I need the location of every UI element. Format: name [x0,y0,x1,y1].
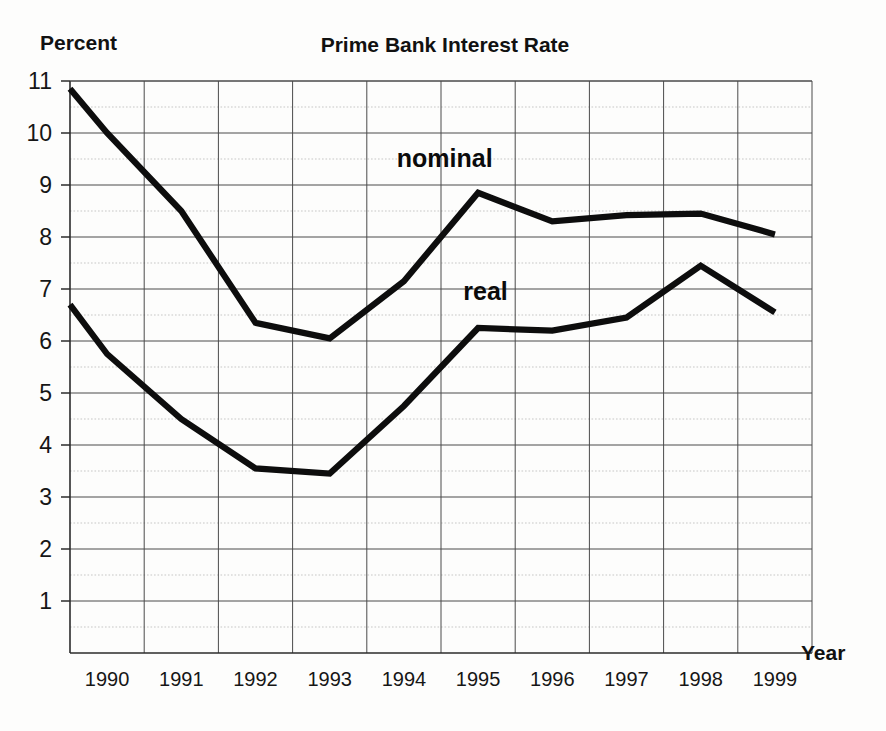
y-axis-title: Percent [40,31,117,54]
prime-bank-interest-rate-chart: 1110987654321 19901991199219931994199519… [0,0,886,731]
x-tick-label: 1992 [233,668,278,690]
chart-page: 1110987654321 19901991199219931994199519… [0,0,886,731]
y-axis-tick-labels: 1110987654321 [26,68,52,614]
y-tick-label: 2 [39,536,52,562]
y-tick-label: 4 [39,432,52,458]
y-tick-label: 8 [39,224,52,250]
x-tick-label: 1990 [85,668,130,690]
x-tick-label: 1994 [382,668,427,690]
axis-tickmarks [61,81,70,601]
y-tick-label: 5 [39,380,52,406]
series-label-real: real [463,277,507,305]
x-tick-label: 1993 [307,668,352,690]
x-tick-label: 1991 [159,668,204,690]
x-axis-title: Year [801,641,845,664]
y-tick-label: 6 [39,328,52,354]
y-tick-label: 1 [39,588,52,614]
y-tick-label: 11 [28,68,52,94]
y-tick-label: 3 [39,484,52,510]
y-tick-label: 10 [26,120,52,146]
chart-title: Prime Bank Interest Rate [321,33,570,56]
x-tick-label: 1999 [753,668,798,690]
x-tick-label: 1995 [456,668,501,690]
y-tick-label: 9 [39,172,52,198]
series-line-nominal [70,89,775,339]
x-axis-tick-labels: 1990199119921993199419951996199719981999 [85,668,797,690]
x-tick-label: 1997 [604,668,649,690]
y-tick-label: 7 [39,276,52,302]
series-line-real [70,266,775,474]
x-tick-label: 1998 [678,668,723,690]
x-tick-label: 1996 [530,668,575,690]
series-label-nominal: nominal [397,144,493,172]
